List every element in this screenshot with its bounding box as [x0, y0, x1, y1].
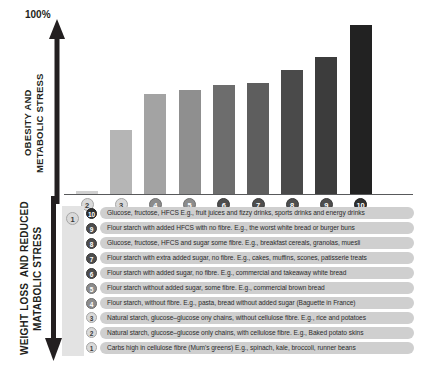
legend-item-number: 9 — [86, 223, 97, 234]
bar-9 — [315, 57, 337, 195]
legend-item: 8Glucose, fructose, HFCS and sugar some … — [86, 236, 414, 250]
legend-item-label: Flour starch without added sugar, some f… — [107, 282, 325, 294]
bar-3 — [110, 130, 132, 195]
legend-item-number: 5 — [86, 283, 97, 294]
legend-item-number: 10 — [86, 208, 97, 219]
legend-item-pill: Flour starch with added sugar, no fibre.… — [100, 267, 414, 279]
legend-item-pill: Natural starch, glucose–glucose ony chai… — [100, 312, 414, 324]
legend-item: 9Flour starch with added HFCS with no fi… — [86, 221, 414, 235]
legend-item-label: Glucose, fructose, HFCS and sugar some f… — [107, 237, 360, 249]
legend-item-label: Flour starch with extra added sugar, no … — [107, 252, 367, 264]
legend-item-pill: Natural starch, glucose–glucose only cha… — [100, 327, 414, 339]
legend-item-number: 8 — [86, 238, 97, 249]
legend-item: 3Natural starch, glucose–glucose ony cha… — [86, 311, 414, 325]
bar-7 — [247, 83, 269, 195]
legend-item: 7Flour starch with extra added sugar, no… — [86, 251, 414, 265]
legend-item-pill: Flour starch without added sugar, some f… — [100, 282, 414, 294]
bar-10 — [350, 25, 372, 195]
bar-5 — [179, 90, 201, 195]
x-axis-tick-badge-1: 1 — [66, 212, 79, 225]
bar-8 — [281, 70, 303, 195]
legend-item: 5Flour starch without added sugar, some … — [86, 281, 414, 295]
bar-6 — [213, 85, 235, 195]
y-axis-max-label: 100% — [25, 9, 51, 20]
legend-item-label: Natural starch, glucose–glucose only cha… — [107, 327, 363, 339]
lower-axis-label: WEIGHT LOSS AND REDUCED MATABOLIC STRESS — [18, 196, 54, 361]
legend-item-number: 3 — [86, 312, 97, 323]
legend-item-number: 2 — [86, 327, 97, 338]
legend-item: 10Glucose, fructose, HFCS E.g., fruit ju… — [86, 206, 414, 220]
legend-item: 1Carbs high in cellulose fibre (Mum's gr… — [86, 341, 414, 355]
bar-plot-area — [64, 14, 413, 195]
legend-item-pill: Glucose, fructose, HFCS and sugar some f… — [100, 237, 414, 249]
legend-item-number: 7 — [86, 253, 97, 264]
legend-item-pill: Flour starch with added HFCS with no fib… — [100, 222, 414, 234]
legend-item-pill: Glucose, fructose, HFCS E.g., fruit juic… — [100, 207, 414, 219]
chart-figure: 100% OBESITY AND METABOLIC STRESS WEIGHT… — [0, 0, 421, 380]
legend-item-number: 1 — [86, 342, 97, 353]
legend-item-label: Flour starch with added sugar, no fibre.… — [107, 267, 346, 279]
legend-item: 6Flour starch with added sugar, no fibre… — [86, 266, 414, 280]
legend-item-pill: Flour starch, without fibre. E.g., pasta… — [100, 297, 414, 309]
legend-list: 10Glucose, fructose, HFCS E.g., fruit ju… — [86, 206, 414, 356]
legend-item-label: Glucose, fructose, HFCS E.g., fruit juic… — [107, 207, 365, 219]
legend-item-number: 4 — [86, 298, 97, 309]
legend-item-label: Flour starch with added HFCS with no fib… — [107, 222, 355, 234]
bar-4 — [144, 94, 166, 195]
legend-item-pill: Flour starch with extra added sugar, no … — [100, 252, 414, 264]
legend-item: 4Flour starch, without fibre. E.g., past… — [86, 296, 414, 310]
category-1-column — [62, 206, 84, 356]
legend-item-label: Carbs high in cellulose fibre (Mum's gre… — [107, 342, 356, 354]
legend-item-number: 6 — [86, 268, 97, 279]
legend-item-label: Natural starch, glucose–glucose ony chai… — [107, 312, 366, 324]
legend-item-label: Flour starch, without fibre. E.g., pasta… — [107, 297, 356, 309]
upper-axis-label: OBESITY AND METABOLIC STRESS — [22, 48, 56, 198]
legend-item: 2Natural starch, glucose–glucose only ch… — [86, 326, 414, 340]
legend-item-pill: Carbs high in cellulose fibre (Mum's gre… — [100, 342, 414, 354]
